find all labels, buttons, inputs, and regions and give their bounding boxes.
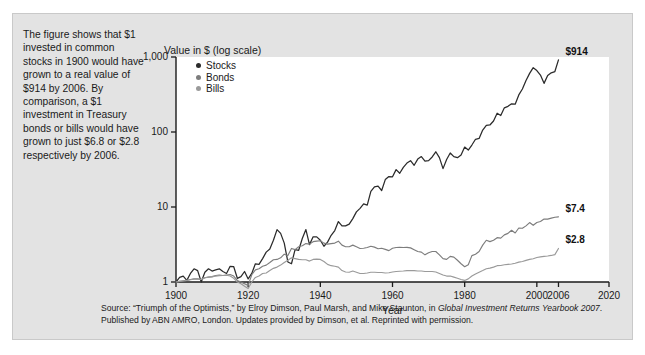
- x-tick-label: 2020: [598, 290, 620, 301]
- chart-legend: StocksBondsBills: [196, 60, 236, 95]
- x-tick-label: 1960: [381, 290, 403, 301]
- y-tick-label: 1,000: [143, 51, 168, 62]
- y-tick-label: 1: [162, 276, 168, 287]
- legend-item-bonds[interactable]: Bonds: [196, 72, 236, 84]
- figure-caption: The figure shows that $1 invested in com…: [23, 28, 145, 162]
- y-tick-label: 100: [151, 126, 168, 137]
- legend-marker-icon: [196, 75, 201, 80]
- legend-label: Bills: [206, 83, 224, 94]
- x-tick-label: 1900: [165, 290, 187, 301]
- legend-item-stocks[interactable]: Stocks: [196, 60, 236, 72]
- legend-label: Bonds: [206, 72, 234, 83]
- series-end-label-bills: $2.8: [565, 234, 584, 245]
- legend-marker-icon: [196, 63, 201, 68]
- source-note: Source: “Triumph of the Optimists,” by E…: [101, 303, 621, 326]
- x-tick-label: 1980: [454, 290, 476, 301]
- x-tick-label: 1920: [237, 290, 259, 301]
- legend-label: Stocks: [206, 60, 236, 71]
- source-italic-1: Global Investment Returns: [438, 303, 540, 313]
- source-italic-2: Yearbook 2007: [542, 303, 600, 313]
- legend-marker-icon: [196, 86, 201, 91]
- chart-plot-area: Value in $ (log scale) StocksBondsBills …: [164, 44, 611, 289]
- source-text-a: Source: “Triumph of the Optimists,” by E…: [101, 303, 438, 313]
- series-end-label-stocks: $914: [565, 46, 587, 57]
- series-end-label-bonds: $7.4: [565, 203, 584, 214]
- x-tick-label: 1940: [309, 290, 331, 301]
- x-tick-label: 2000: [526, 290, 548, 301]
- x-tick-label: 2006: [547, 290, 569, 301]
- figure-panel: The figure shows that $1 invested in com…: [12, 13, 633, 340]
- legend-item-bills[interactable]: Bills: [196, 83, 236, 95]
- y-tick-label: 10: [157, 201, 168, 212]
